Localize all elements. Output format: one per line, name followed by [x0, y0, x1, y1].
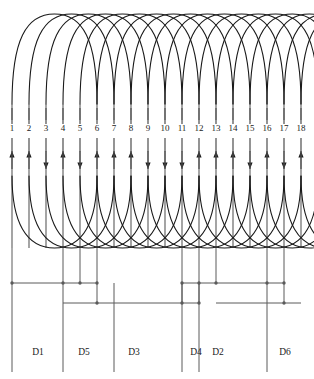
end-turn-arc-bottom	[233, 176, 314, 248]
phase-label-D2: D2	[212, 347, 224, 357]
terminal-connection-wiring	[10, 248, 301, 305]
end-turn-arc-top	[80, 14, 165, 104]
slot-number-1: 1	[10, 123, 15, 133]
slot-number-3: 3	[44, 123, 49, 133]
end-turn-arc-bottom	[301, 176, 314, 248]
top-end-turn-arcs	[12, 14, 314, 104]
slot-number-15: 15	[246, 123, 256, 133]
junction-dot	[282, 301, 285, 304]
end-turn-arc-top	[165, 14, 250, 104]
end-turn-arc-top	[131, 14, 216, 104]
upper-coil-side-lines	[12, 104, 301, 120]
junction-dot	[282, 281, 285, 284]
end-turn-arc-top	[63, 14, 148, 104]
end-turn-arc-top	[148, 14, 233, 104]
phase-label-D1: D1	[32, 347, 44, 357]
lower-coil-side-lines	[12, 152, 301, 248]
end-turn-arc-top	[12, 14, 97, 104]
slot-number-17: 17	[280, 123, 290, 133]
phase-label-D5: D5	[78, 347, 90, 357]
slot-number-11: 11	[178, 123, 187, 133]
slot-number-13: 13	[212, 123, 222, 133]
end-turn-arc-top	[29, 14, 114, 104]
slot-number-7: 7	[112, 123, 117, 133]
slot-tick-marks	[12, 108, 301, 152]
end-turn-arc-bottom	[284, 176, 314, 248]
phase-label-D4: D4	[190, 347, 202, 357]
end-turn-arc-top	[233, 14, 314, 104]
slot-number-labels: 123456789101112131415161718	[10, 123, 306, 133]
junction-dot	[95, 301, 98, 304]
end-turn-arc-top	[199, 14, 284, 104]
slot-number-14: 14	[229, 123, 239, 133]
end-turn-arc-top	[97, 14, 182, 104]
end-turn-arc-top	[114, 14, 199, 104]
end-turn-arc-top	[267, 14, 314, 104]
bottom-end-turn-arcs	[12, 176, 314, 248]
slot-number-12: 12	[195, 123, 204, 133]
junction-dot	[95, 281, 98, 284]
end-turn-arc-top	[284, 14, 314, 104]
slot-number-5: 5	[78, 123, 83, 133]
winding-diagram: 123456789101112131415161718 D1D5D3D4D2D6	[0, 0, 314, 379]
slot-number-2: 2	[27, 123, 32, 133]
slot-number-10: 10	[161, 123, 171, 133]
slot-number-4: 4	[61, 123, 66, 133]
winding-diagram-canvas: 123456789101112131415161718 D1D5D3D4D2D6	[0, 0, 314, 379]
end-turn-arc-top	[182, 14, 267, 104]
end-turn-arc-bottom	[267, 176, 314, 248]
phase-label-D3: D3	[128, 347, 140, 357]
slot-number-8: 8	[129, 123, 134, 133]
junction-dot	[78, 281, 81, 284]
phase-terminal-labels: D1D5D3D4D2D6	[32, 347, 291, 357]
junction-dot	[214, 281, 217, 284]
end-turn-arc-top	[216, 14, 301, 104]
slot-number-9: 9	[146, 123, 151, 133]
slot-number-16: 16	[263, 123, 273, 133]
end-turn-arc-top	[46, 14, 131, 104]
slot-number-6: 6	[95, 123, 100, 133]
current-direction-arrows	[9, 151, 303, 169]
phase-lead-lines	[12, 283, 267, 372]
phase-label-D6: D6	[279, 347, 291, 357]
slot-number-18: 18	[297, 123, 307, 133]
